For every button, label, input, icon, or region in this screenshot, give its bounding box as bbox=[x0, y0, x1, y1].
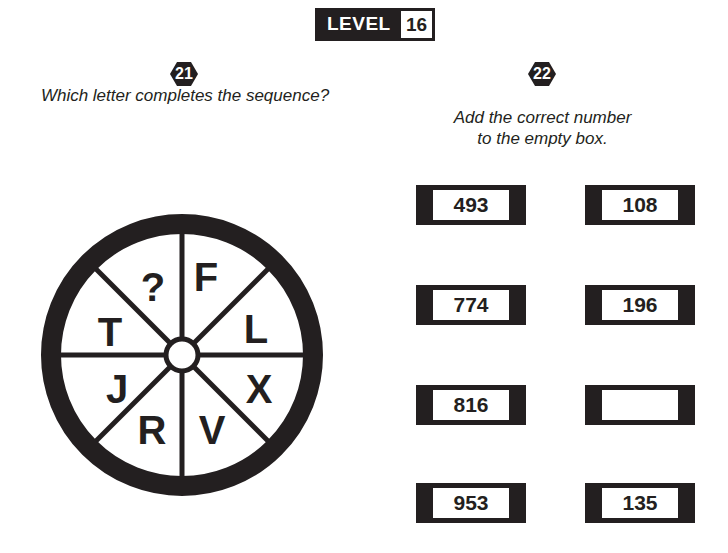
puzzle-22-question-line2: to the empty box. bbox=[400, 129, 685, 149]
level-banner: LEVEL 16 bbox=[315, 8, 435, 41]
level-label: LEVEL bbox=[327, 13, 391, 35]
puzzle-22-badge: 22 bbox=[528, 62, 556, 86]
number-box: 196 bbox=[585, 285, 695, 325]
number-box: 108 bbox=[585, 185, 695, 225]
puzzle-22-question-line1: Add the correct number bbox=[400, 108, 685, 128]
wheel-letter: L bbox=[244, 307, 268, 351]
puzzle-21-number: 21 bbox=[170, 62, 198, 86]
wheel-letter: J bbox=[106, 367, 128, 411]
letter-wheel: F L X V R J T ? bbox=[40, 213, 324, 497]
wheel-letter: F bbox=[194, 255, 218, 299]
number-box: 493 bbox=[416, 185, 526, 225]
number-box: 953 bbox=[416, 483, 526, 523]
number-box: 816 bbox=[416, 385, 526, 425]
wheel-letter: T bbox=[98, 310, 122, 354]
number-box: 135 bbox=[585, 483, 695, 523]
wheel-question-mark: ? bbox=[141, 265, 165, 309]
puzzle-21-badge: 21 bbox=[170, 62, 198, 86]
wheel-letter: X bbox=[246, 367, 273, 411]
level-number: 16 bbox=[401, 11, 432, 38]
wheel-letter: R bbox=[138, 408, 167, 452]
puzzle-21-question: Which letter completes the sequence? bbox=[0, 86, 370, 106]
puzzle-22-number: 22 bbox=[528, 62, 556, 86]
wheel-letter: V bbox=[199, 408, 226, 452]
number-box: 774 bbox=[416, 285, 526, 325]
empty-answer-box[interactable] bbox=[585, 385, 695, 425]
